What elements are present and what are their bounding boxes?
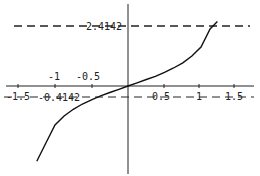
tick-label-1: 1 [196, 91, 202, 102]
tick-label-m1: -1 [48, 71, 60, 82]
ref-label-bottom: -0.4142 [38, 92, 80, 103]
tick-label-15: 1.5 [225, 91, 243, 102]
tick-label-m15: -1.5 [6, 91, 30, 102]
tick-label-m05: -0.5 [76, 71, 100, 82]
ref-label-top: 2.4142 [86, 21, 122, 32]
tick-label-05: 0.5 [152, 91, 170, 102]
plot: 2.4142 -1 -0.5 -1.5 -0.4142 0.5 1 1.5 [0, 0, 260, 176]
